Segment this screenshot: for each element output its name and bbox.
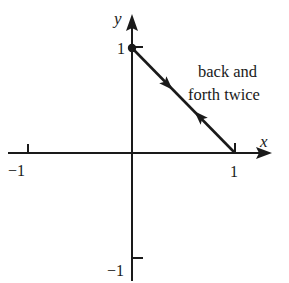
x-axis-label: x bbox=[259, 132, 268, 151]
y-tick-label-1: 1 bbox=[117, 40, 125, 57]
y-tick-label-neg1: −1 bbox=[107, 262, 124, 279]
x-tick-label-neg1: −1 bbox=[8, 162, 25, 179]
x-tick-label-1: 1 bbox=[230, 163, 238, 180]
y-axis-label: y bbox=[112, 9, 122, 28]
start-point-dot bbox=[128, 44, 136, 52]
annotation-line-1: back and bbox=[198, 62, 258, 81]
annotation-line-2: forth twice bbox=[188, 85, 260, 104]
path-diagram: y x −1 1 1 −1 back and forth twice bbox=[0, 0, 289, 283]
